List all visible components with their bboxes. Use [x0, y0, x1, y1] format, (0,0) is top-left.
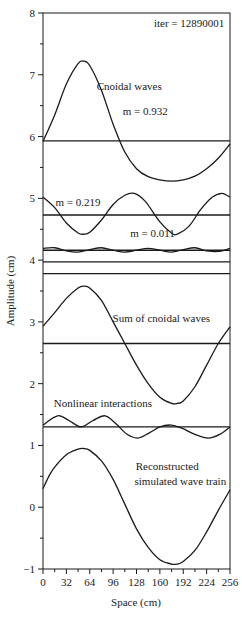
y-tick-label: 8: [30, 7, 36, 19]
x-tick-label: 128: [128, 576, 145, 588]
series-line: [43, 61, 230, 181]
annotation-label: iter = 12890001: [154, 17, 224, 29]
y-tick-label: 5: [30, 192, 36, 204]
y-tick-label: −1: [23, 563, 35, 575]
y-tick-label: 0: [30, 501, 36, 513]
x-axis-label: Space (cm): [111, 596, 161, 609]
annotation-label: Reconstructed: [136, 460, 199, 472]
annotation-label: m = 0.011: [130, 227, 175, 239]
x-tick-label: 192: [175, 576, 192, 588]
y-axis-label: Amplitude (cm): [4, 255, 17, 326]
series-line: [43, 286, 230, 404]
x-tick-label: 96: [108, 576, 120, 588]
x-tick-label: 256: [222, 576, 239, 588]
annotation-label: m = 0.932: [123, 105, 168, 117]
annotation-label: m = 0.219: [56, 196, 102, 208]
x-tick-label: 0: [40, 576, 46, 588]
annotation-label: Cnoidal waves: [97, 80, 162, 92]
y-tick-label: 2: [30, 378, 36, 390]
x-axis-ticks: 0326496128160192224256: [40, 569, 239, 588]
x-tick-label: 64: [84, 576, 96, 588]
y-tick-label: 4: [30, 254, 36, 266]
x-tick-label: 32: [61, 576, 72, 588]
x-tick-label: 160: [152, 576, 169, 588]
chart-figure: −1012345678 0326496128160192224256 iter …: [0, 0, 242, 617]
x-tick-label: 224: [198, 576, 215, 588]
annotation-label: Sum of cnoidal waves: [113, 312, 210, 324]
annotation-label: Nonlinear interactions: [54, 397, 152, 409]
y-tick-label: 6: [30, 131, 36, 143]
y-axis-ticks: −1012345678: [23, 7, 43, 575]
chart-svg: −1012345678 0326496128160192224256 iter …: [0, 0, 242, 617]
y-tick-label: 7: [30, 69, 36, 81]
y-tick-label: 3: [30, 316, 36, 328]
annotation-label: simulated wave train: [135, 475, 227, 487]
y-tick-label: 1: [30, 439, 36, 451]
